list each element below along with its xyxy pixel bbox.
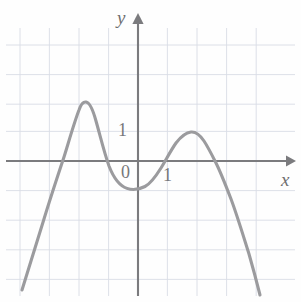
y-axis-label: y	[117, 8, 125, 27]
function-curve	[22, 102, 260, 295]
graph-figure: y x 1 0 1	[0, 0, 301, 302]
plot-canvas	[0, 0, 301, 302]
y-axis-arrow-icon	[132, 13, 143, 24]
x-axis-arrow-icon	[286, 155, 296, 166]
x-axis-label: x	[281, 170, 289, 189]
curve-group	[22, 102, 260, 295]
x-tick-label-one: 1	[163, 166, 172, 184]
y-tick-label-one: 1	[118, 121, 127, 139]
origin-tick-label: 0	[121, 163, 130, 181]
